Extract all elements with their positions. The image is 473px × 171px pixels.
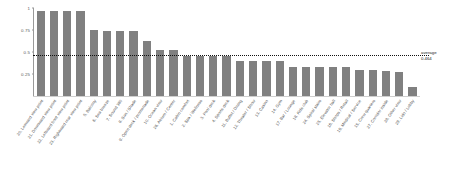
bar-item[interactable] bbox=[114, 8, 127, 96]
y-axis-tick-label: 0.75 bbox=[21, 28, 30, 33]
bar-item[interactable] bbox=[87, 8, 100, 96]
bar-item[interactable] bbox=[339, 8, 352, 96]
bar[interactable] bbox=[382, 71, 390, 96]
bar[interactable] bbox=[369, 70, 377, 96]
y-axis-tick-mark bbox=[32, 74, 34, 75]
bar[interactable] bbox=[329, 67, 337, 96]
average-label-value: 0.464 bbox=[421, 56, 437, 61]
average-label-text: average bbox=[421, 50, 437, 55]
y-axis-tick-label: 0.5 bbox=[24, 50, 30, 55]
bar-item[interactable] bbox=[379, 8, 392, 96]
bar[interactable] bbox=[50, 11, 58, 96]
bar[interactable] bbox=[37, 11, 45, 96]
bar[interactable] bbox=[129, 31, 137, 96]
bar[interactable] bbox=[143, 41, 151, 96]
bar[interactable] bbox=[76, 11, 84, 96]
chart-root: 10.750.50.25 average 0.464 20. Leeward v… bbox=[0, 0, 473, 171]
y-axis-tick-label: 1 bbox=[27, 6, 30, 11]
bar-item[interactable] bbox=[34, 8, 47, 96]
bar-item[interactable] bbox=[127, 8, 140, 96]
bar-item[interactable] bbox=[313, 8, 326, 96]
bar-item[interactable] bbox=[100, 8, 113, 96]
bar-series bbox=[34, 8, 419, 96]
bar[interactable] bbox=[183, 56, 191, 96]
bar[interactable] bbox=[276, 61, 284, 96]
bar-item[interactable] bbox=[273, 8, 286, 96]
bar[interactable] bbox=[395, 72, 403, 96]
bar-item[interactable] bbox=[406, 8, 419, 96]
y-axis-tick-mark bbox=[32, 30, 34, 31]
bar[interactable] bbox=[156, 50, 164, 96]
bar-item[interactable] bbox=[220, 8, 233, 96]
bar-item[interactable] bbox=[193, 8, 206, 96]
bar-item[interactable] bbox=[47, 8, 60, 96]
bar[interactable] bbox=[408, 87, 416, 96]
plot-area bbox=[34, 8, 419, 96]
bar[interactable] bbox=[209, 56, 217, 96]
bar[interactable] bbox=[262, 61, 270, 96]
bar[interactable] bbox=[342, 67, 350, 96]
bar-item[interactable] bbox=[247, 8, 260, 96]
bar[interactable] bbox=[90, 30, 98, 96]
bar-item[interactable] bbox=[61, 8, 74, 96]
bar[interactable] bbox=[169, 50, 177, 96]
bar-item[interactable] bbox=[233, 8, 246, 96]
bar-item[interactable] bbox=[393, 8, 406, 96]
bar[interactable] bbox=[302, 67, 310, 96]
bar-item[interactable] bbox=[300, 8, 313, 96]
bar[interactable] bbox=[196, 56, 204, 96]
average-line bbox=[33, 55, 429, 56]
x-axis-labels: 20. Leeward view point21. Downward view … bbox=[34, 97, 419, 171]
bar[interactable] bbox=[236, 61, 244, 96]
y-axis-tick-mark bbox=[32, 52, 34, 53]
bar[interactable] bbox=[289, 67, 297, 96]
x-axis-label-text: 13. Casino bbox=[255, 99, 270, 118]
average-line-label: average 0.464 bbox=[421, 50, 437, 61]
bar-item[interactable] bbox=[180, 8, 193, 96]
bar-item[interactable] bbox=[366, 8, 379, 96]
y-axis-tick-label: 0.25 bbox=[21, 72, 30, 77]
bar-item[interactable] bbox=[286, 8, 299, 96]
bar[interactable] bbox=[355, 70, 363, 96]
bar-item[interactable] bbox=[140, 8, 153, 96]
bar[interactable] bbox=[116, 31, 124, 96]
bar[interactable] bbox=[222, 56, 230, 96]
bar-item[interactable] bbox=[167, 8, 180, 96]
bar[interactable] bbox=[103, 31, 111, 96]
bar[interactable] bbox=[249, 61, 257, 96]
bar-item[interactable] bbox=[74, 8, 87, 96]
bar[interactable] bbox=[315, 67, 323, 96]
bar-item[interactable] bbox=[154, 8, 167, 96]
bar-item[interactable] bbox=[260, 8, 273, 96]
bar-item[interactable] bbox=[326, 8, 339, 96]
y-axis-tick-mark bbox=[32, 8, 34, 9]
bar-item[interactable] bbox=[207, 8, 220, 96]
bar-item[interactable] bbox=[353, 8, 366, 96]
bar[interactable] bbox=[63, 11, 71, 96]
